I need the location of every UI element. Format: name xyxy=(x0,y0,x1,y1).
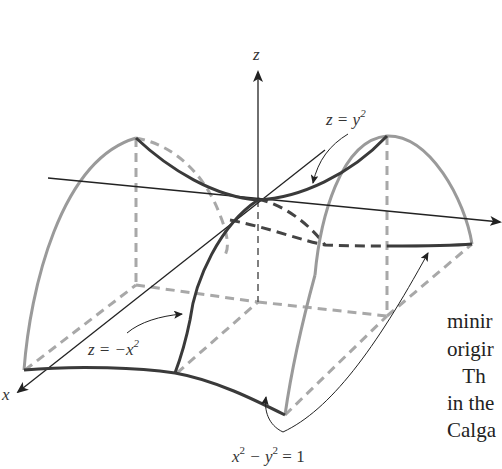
leader-neg-x2 xyxy=(127,314,182,333)
left-arch-curve xyxy=(24,138,136,370)
z-eq-neg-x2-curve xyxy=(175,200,258,373)
svg-text:in the: in the xyxy=(447,391,494,415)
side-text-fragment: minir origir Th in the Calga xyxy=(447,309,497,442)
leader-hyper-right xyxy=(283,253,428,432)
dashed-projection-lines xyxy=(25,136,472,415)
leader-arrows xyxy=(127,134,428,432)
leader-z-y2 xyxy=(313,134,348,183)
x-axis-label: x xyxy=(1,385,10,404)
right-front-edge xyxy=(285,275,315,415)
right-arch-curve xyxy=(315,136,472,275)
label-z-eq-neg-x2: z = −x2 xyxy=(87,337,140,359)
saddle-surface-diagram: z x z = y2 z = −x2 x2 − y2 = 1 minir ori… xyxy=(0,0,502,469)
back-hyperbola-edge xyxy=(387,244,472,246)
svg-text:Calga: Calga xyxy=(447,418,497,442)
front-hyperbola-edge xyxy=(24,367,285,415)
label-z-eq-y2: z = y2 xyxy=(325,107,366,129)
svg-text:origir: origir xyxy=(447,337,494,361)
svg-text:Th: Th xyxy=(447,364,486,388)
x-axis xyxy=(18,150,325,392)
z-axis-label: z xyxy=(252,45,260,64)
y-axis xyxy=(48,178,500,222)
leader-hyper-left xyxy=(266,397,283,432)
dark-curves xyxy=(24,136,472,415)
label-hyperbola: x2 − y2 = 1 xyxy=(231,444,305,466)
svg-text:minir: minir xyxy=(447,309,493,333)
